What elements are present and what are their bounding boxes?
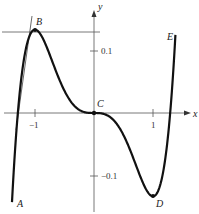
x-axis-arrow-icon [184, 111, 191, 116]
function-graph: x y −1 1 0.1 −0.1 A B C D E [0, 0, 199, 214]
x-axis-label: x [192, 108, 198, 119]
point-e-label: E [166, 31, 173, 42]
point-d-marker [151, 194, 155, 198]
point-b-label: B [36, 16, 42, 27]
y-axis-arrow-icon [92, 10, 97, 17]
point-d-label: D [155, 198, 164, 209]
y-tick-label-neg0.1: −0.1 [101, 171, 117, 181]
x-tick-label-1: 1 [151, 120, 156, 130]
x-tick-label-neg1: −1 [29, 120, 39, 130]
y-axis-label: y [97, 1, 103, 12]
y-tick-label-0.1: 0.1 [101, 46, 112, 56]
point-c-marker [92, 111, 96, 115]
point-a-label: A [16, 198, 24, 209]
point-c-label: C [97, 98, 104, 109]
point-b-marker [33, 28, 37, 32]
